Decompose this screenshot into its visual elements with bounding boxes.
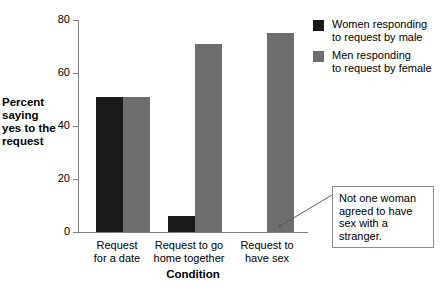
legend-item-men: Men responding to request by female xyxy=(313,49,438,74)
y-tick-label-0: 0 xyxy=(46,226,70,237)
x-category-label-0-line-1: Request xyxy=(78,239,156,252)
annotation-line-3: sex with a stranger. xyxy=(339,217,428,242)
y-axis-title-line-4: request xyxy=(2,135,64,148)
legend-swatch-men-icon xyxy=(313,51,324,62)
x-category-label-request-for-a-date: Request for a date xyxy=(78,239,156,264)
x-category-label-1-line-1: Request to go xyxy=(150,239,228,252)
legend-label-men: Men responding to request by female xyxy=(332,49,438,74)
legend-label-women-line-2: to request by male xyxy=(332,31,423,43)
y-tick-label-40: 40 xyxy=(46,120,70,131)
bar-group-request-to-go-home-together xyxy=(168,20,222,232)
bar-chart: Percent saying yes to the request 80 60 … xyxy=(0,0,440,289)
y-tick-label-60: 60 xyxy=(46,67,70,78)
chart-legend: Women responding to request by male Men … xyxy=(313,18,438,80)
bar-women-request-for-a-date xyxy=(96,97,123,232)
legend-label-women: Women responding to request by male xyxy=(332,18,438,43)
y-tick-label-20-wrap: 20 xyxy=(46,173,70,184)
annotation-pointer-line xyxy=(270,195,335,235)
y-tick-label-20: 20 xyxy=(46,173,70,184)
x-category-label-request-to-have-sex: Request to have sex xyxy=(228,239,306,264)
annotation-line-1: Not one woman xyxy=(339,192,428,205)
y-axis-title-line-1: Percent xyxy=(2,96,64,109)
legend-label-women-line-1: Women responding xyxy=(332,18,427,30)
x-category-label-2-line-1: Request to xyxy=(228,239,306,252)
x-category-label-1-line-2: home together xyxy=(150,252,228,265)
legend-label-men-line-1: Men responding xyxy=(332,49,411,61)
y-tick-label-80-wrap: 80 xyxy=(46,14,70,25)
y-tick-label-60-wrap: 60 xyxy=(46,67,70,78)
legend-label-men-line-2: to request by female xyxy=(332,62,432,74)
x-category-label-0-line-2: for a date xyxy=(78,252,156,265)
y-tick-label-40-wrap: 40 xyxy=(46,120,70,131)
y-tick-label-80: 80 xyxy=(46,14,70,25)
legend-swatch-women-icon xyxy=(313,20,324,31)
legend-item-women: Women responding to request by male xyxy=(313,18,438,43)
y-tick-label-0-wrap: 0 xyxy=(46,226,70,237)
bar-men-request-to-go-home-together xyxy=(195,44,222,232)
y-tick-mark-0 xyxy=(73,232,78,233)
bar-women-request-to-go-home-together xyxy=(168,216,195,232)
annotation-line-2: agreed to have xyxy=(339,205,428,218)
x-category-label-2-line-2: have sex xyxy=(228,252,306,265)
bar-group-request-for-a-date xyxy=(96,20,150,232)
x-category-label-request-to-go-home-together: Request to go home together xyxy=(150,239,228,264)
annotation-callout: Not one woman agreed to have sex with a … xyxy=(332,186,434,248)
x-axis-title: Condition xyxy=(78,268,308,280)
bar-men-request-for-a-date xyxy=(123,97,150,232)
